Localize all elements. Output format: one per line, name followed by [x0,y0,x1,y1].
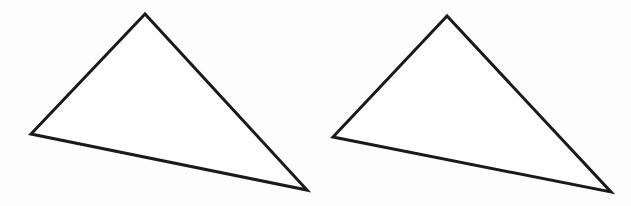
triangles-diagram [0,0,631,206]
left-triangle [31,14,307,190]
diagram-canvas [0,0,631,206]
right-triangle [333,16,611,192]
